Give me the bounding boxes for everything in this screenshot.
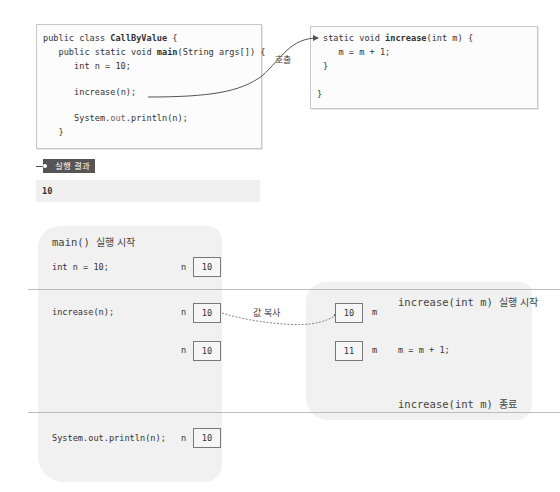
call-label: 호출 [275, 53, 291, 66]
value-box: 11 [335, 341, 363, 361]
statement-label: m = m + 1; [398, 345, 450, 355]
copy-label: 값 복사 [253, 306, 280, 319]
variable-name: m [372, 307, 377, 317]
main-start-heading: main() 실행 시작 [52, 234, 135, 249]
result-tag: 실행 결과 [43, 159, 95, 173]
increase-end-heading: increase(int m) 종료 [398, 396, 517, 411]
variable-name: n [181, 345, 186, 355]
increase-start-heading: increase(int m) 실행 시작 [398, 294, 538, 309]
call-arrow [0, 0, 560, 160]
result-tag-dot-icon [43, 164, 47, 168]
variable-name: n [181, 262, 186, 272]
statement-label: System.out.println(n); [52, 433, 166, 443]
value-box: 10 [193, 428, 221, 448]
value-box: 10 [193, 257, 221, 277]
result-output: 10 [36, 180, 260, 202]
variable-name: n [181, 433, 186, 443]
statement-label: int n = 10; [52, 262, 109, 272]
divider-line [28, 412, 560, 413]
value-box: 10 [335, 303, 363, 323]
variable-name: m [372, 345, 377, 355]
value-box: 10 [193, 341, 221, 361]
